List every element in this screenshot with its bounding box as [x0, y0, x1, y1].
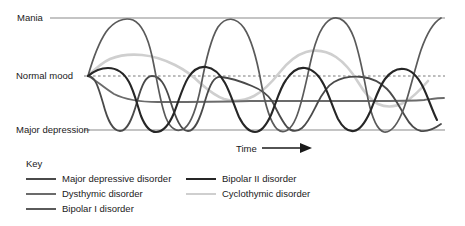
mood-disorders-chart: Mania Normal mood Major depression Time …: [0, 0, 465, 226]
legend-label-bipolar-ii-disorder: Bipolar II disorder: [222, 173, 296, 184]
y-axis-label-normal-mood: Normal mood: [16, 71, 73, 81]
legend-column-right: Bipolar II disorder Cyclothymic disorder: [186, 171, 310, 201]
legend-swatch-dysthymic-disorder: [26, 193, 56, 195]
legend-swatch-cyclothymic-disorder: [186, 193, 216, 195]
legend-swatch-bipolar-ii-disorder: [186, 178, 216, 180]
legend-item-cyclothymic-disorder: Cyclothymic disorder: [186, 186, 310, 201]
legend-label-bipolar-i-disorder: Bipolar I disorder: [62, 203, 134, 214]
legend-title: Key: [26, 158, 42, 169]
legend-item-bipolar-i-disorder: Bipolar I disorder: [26, 201, 171, 216]
curve-major-depressive-disorder: [88, 76, 441, 131]
legend-column-left: Major depressive disorder Dysthymic diso…: [26, 171, 171, 216]
legend-item-major-depressive-disorder: Major depressive disorder: [26, 171, 171, 186]
legend-item-dysthymic-disorder: Dysthymic disorder: [26, 186, 171, 201]
legend-swatch-major-depressive-disorder: [26, 178, 56, 180]
time-arrow-icon: [262, 143, 312, 153]
series-curves: [88, 18, 444, 132]
legend-item-bipolar-ii-disorder: Bipolar II disorder: [186, 171, 310, 186]
y-axis-label-mania: Mania: [17, 13, 43, 23]
x-axis-label-time: Time: [236, 143, 257, 154]
legend-label-dysthymic-disorder: Dysthymic disorder: [62, 188, 143, 199]
curve-bipolar-ii-disorder: [88, 67, 437, 132]
legend-label-cyclothymic-disorder: Cyclothymic disorder: [222, 188, 310, 199]
legend-label-major-depressive-disorder: Major depressive disorder: [62, 173, 171, 184]
legend-swatch-bipolar-i-disorder: [26, 208, 56, 210]
legend: Key Major depressive disorder Dysthymic …: [26, 158, 446, 220]
y-axis-label-major-depression: Major depression: [16, 125, 89, 135]
